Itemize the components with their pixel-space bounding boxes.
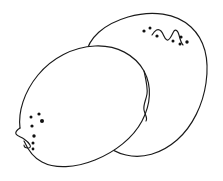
pore-dot	[172, 40, 175, 43]
pore-dot	[155, 34, 158, 37]
pore-dot	[185, 40, 188, 43]
pore-dot	[30, 124, 33, 127]
two-lemons-illustration	[0, 0, 223, 181]
pore-dot	[149, 27, 152, 30]
drawing-canvas: Two Lemons Line Drawing Black ink outlin…	[0, 0, 223, 181]
pore-dot	[179, 43, 182, 46]
pore-dot	[32, 148, 35, 151]
pore-dot	[32, 134, 35, 137]
pore-dot	[30, 116, 33, 119]
pore-dot	[32, 142, 35, 145]
pore-dot	[179, 35, 182, 38]
pore-dot	[37, 112, 40, 115]
pore-dot	[40, 119, 44, 123]
pore-dot	[142, 29, 145, 32]
